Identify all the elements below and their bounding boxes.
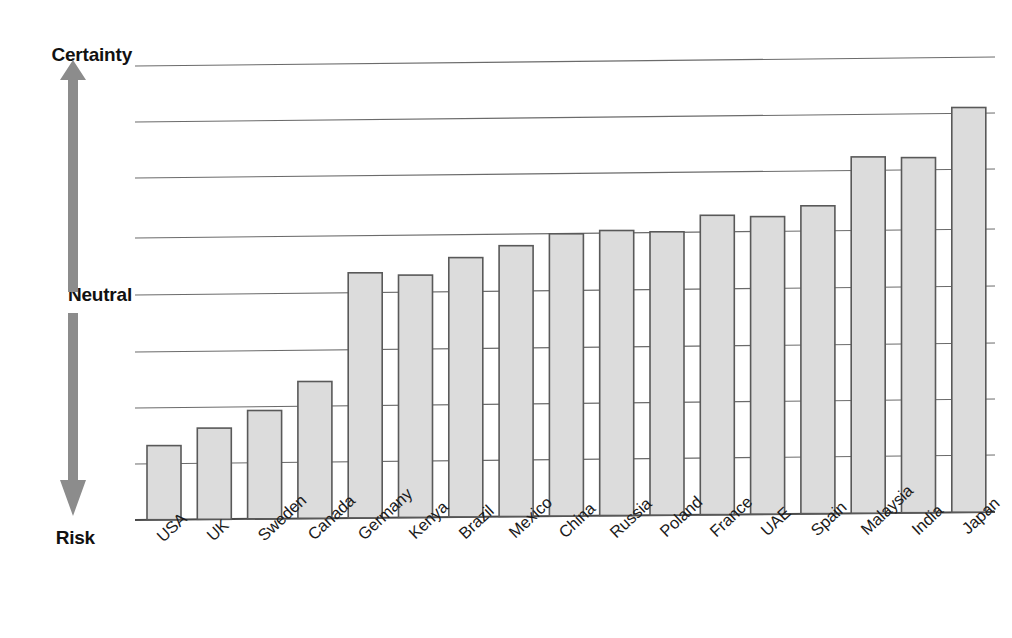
bar-series: USAUKSwedenCanadaGermanyKenyaBrazilMexic… xyxy=(135,40,995,540)
bar: China xyxy=(549,234,583,516)
bar-chart-figure: Certainty Neutral Risk USAUKSwed xyxy=(0,0,1012,638)
bar: Poland xyxy=(650,232,684,515)
bar: Spain xyxy=(801,206,835,514)
bar: UK xyxy=(197,428,231,519)
bar: UAE xyxy=(751,217,785,514)
bar: Mexico xyxy=(499,246,533,517)
double-arrow-icon xyxy=(55,60,91,520)
bar: Kenya xyxy=(399,275,433,517)
bar: Japan xyxy=(952,108,986,513)
bar: Germany xyxy=(348,273,382,518)
bar: USA xyxy=(147,446,181,520)
bar: Russia xyxy=(600,231,634,516)
category-axis-labels: USAUKSwedenCanadaGermanyKenyaBrazilMexic… xyxy=(135,522,1005,632)
bar: France xyxy=(700,215,734,514)
vertical-scale-axis: Certainty Neutral Risk xyxy=(0,0,140,638)
bar: India xyxy=(902,158,936,513)
plot-area: USAUKSwedenCanadaGermanyKenyaBrazilMexic… xyxy=(135,40,995,540)
bar: Brazil xyxy=(449,258,483,517)
bar: Sweden xyxy=(248,411,282,519)
axis-label-risk: Risk xyxy=(56,527,95,549)
bar: Malaysia xyxy=(851,157,885,513)
